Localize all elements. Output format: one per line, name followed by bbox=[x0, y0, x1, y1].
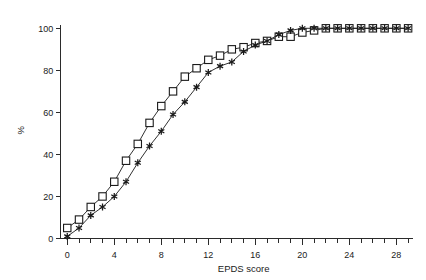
data-point-square bbox=[75, 216, 82, 223]
data-point-square bbox=[87, 203, 94, 210]
y-tick-label: 40 bbox=[43, 150, 53, 160]
x-tick-label: 4 bbox=[112, 250, 117, 260]
data-point-square bbox=[122, 157, 129, 164]
y-tick-label: 60 bbox=[43, 108, 53, 118]
x-tick-label: 16 bbox=[250, 250, 260, 260]
y-axis-ticks bbox=[56, 28, 61, 238]
data-point-square bbox=[134, 140, 141, 147]
data-point-square bbox=[64, 224, 71, 231]
x-tick-label: 8 bbox=[159, 250, 164, 260]
x-axis-tick-labels: 0481216202428 bbox=[65, 250, 402, 260]
x-tick-label: 20 bbox=[297, 250, 307, 260]
series-square-series bbox=[64, 25, 412, 232]
x-tick-label: 0 bbox=[65, 250, 70, 260]
data-point-square bbox=[111, 178, 118, 185]
series-line bbox=[67, 28, 408, 228]
y-axis-title: % bbox=[15, 125, 26, 134]
y-tick-label: 100 bbox=[38, 24, 53, 34]
data-point-square bbox=[193, 65, 200, 72]
x-axis-ticks bbox=[67, 239, 408, 245]
data-point-square bbox=[181, 73, 188, 80]
data-series-layer bbox=[64, 25, 412, 240]
data-point-square bbox=[287, 33, 294, 40]
data-point-square bbox=[205, 56, 212, 63]
x-tick-label: 12 bbox=[203, 250, 213, 260]
data-point-square bbox=[216, 52, 223, 59]
y-tick-label: 80 bbox=[43, 66, 53, 76]
series-line bbox=[67, 28, 408, 236]
data-point-square bbox=[99, 193, 106, 200]
x-tick-label: 24 bbox=[344, 250, 354, 260]
data-point-square bbox=[228, 46, 235, 53]
data-point-square bbox=[169, 88, 176, 95]
y-tick-label: 20 bbox=[43, 192, 53, 202]
data-point-square bbox=[146, 119, 153, 126]
y-axis-tick-labels: 020406080100 bbox=[38, 24, 53, 244]
x-tick-label: 28 bbox=[391, 250, 401, 260]
data-point-star bbox=[217, 63, 223, 70]
data-point-square bbox=[158, 102, 165, 109]
chart-figure: 020406080100 0481216202428 EPDS score % bbox=[0, 0, 426, 280]
x-axis-title: EPDS score bbox=[218, 263, 270, 274]
y-tick-label: 0 bbox=[48, 234, 53, 244]
cumulative-percentage-line-chart: 020406080100 0481216202428 EPDS score % bbox=[0, 0, 426, 280]
series-star-series bbox=[64, 25, 411, 240]
